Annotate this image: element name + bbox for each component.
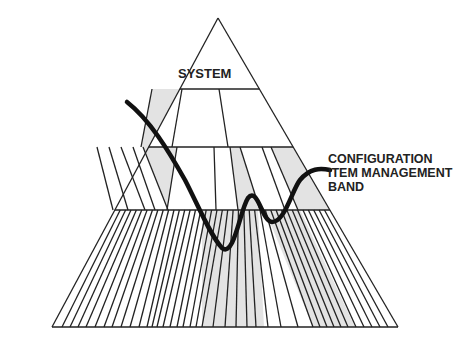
- band-label-line-2: ITEM MANAGEMENT: [328, 166, 452, 180]
- band-label-line-3: BAND: [328, 180, 452, 194]
- tier4-divider: [104, 210, 147, 327]
- tier4-divider: [70, 210, 126, 327]
- tier4-divider: [170, 210, 195, 327]
- tier3-divider: [214, 147, 216, 210]
- pyramid-diagram: SYSTEM CONFIGURATION ITEM MANAGEMENT BAN…: [0, 0, 465, 345]
- tier4-divider: [139, 210, 169, 327]
- tier3-divider: [97, 147, 113, 210]
- tier4-divider: [121, 210, 158, 327]
- band-label-line-1: CONFIGURATION: [328, 152, 452, 166]
- band-label: CONFIGURATION ITEM MANAGEMENT BAND: [328, 152, 452, 194]
- tier2-divider: [219, 89, 228, 147]
- tier4-divider: [147, 210, 174, 327]
- tier4-divider: [152, 210, 179, 327]
- tier4-divider: [78, 210, 131, 327]
- system-label: SYSTEM: [178, 66, 231, 81]
